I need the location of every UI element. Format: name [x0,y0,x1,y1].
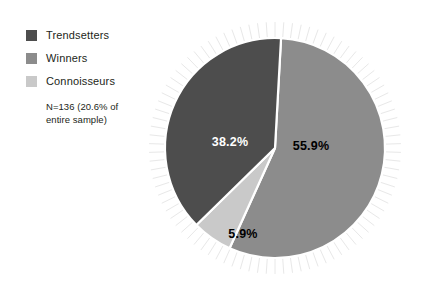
radial-tick-icon [367,210,379,218]
radial-tick-icon [150,135,165,137]
radial-tick-icon [166,85,179,93]
radial-tick-icon [375,197,388,204]
radial-tick-icon [171,78,183,86]
radial-tick-icon [166,204,179,212]
radial-tick-icon [385,135,400,137]
radial-tick-icon [362,216,374,225]
radial-tick-icon [375,93,388,100]
radial-tick-icon [327,246,334,259]
radial-tick-icon [249,25,252,40]
radial-tick-icon [290,258,292,273]
radial-tick-icon [371,204,384,212]
radial-tick-icon [149,144,164,145]
radial-tick-icon [367,78,379,86]
radial-tick-icon [340,238,349,250]
radial-tick-icon [208,242,216,255]
radial-tick-icon [383,118,398,122]
radial-tick-icon [150,160,165,162]
radial-tick-icon [357,64,368,74]
radial-tick-icon [298,257,301,272]
radial-tick-icon [153,175,168,179]
radial-tick-icon [151,167,166,170]
radial-tick-icon [378,190,392,196]
radial-tick-icon [362,70,374,79]
radial-tick-icon [224,249,230,263]
radial-tick-icon [385,160,400,162]
radial-tick-icon [298,25,301,40]
radial-tick-icon [357,222,368,232]
radial-tick-icon [162,93,175,100]
radial-tick-icon [176,70,188,79]
radial-tick-icon [232,252,237,266]
radial-tick-icon [386,144,401,145]
radial-tick-icon [216,37,223,50]
radial-tick-icon [340,46,349,58]
radial-tick-icon [216,246,223,259]
radial-tick-icon [194,51,204,62]
radial-tick-icon [283,259,284,274]
radial-tick-icon [384,126,399,129]
radial-tick-icon [266,259,267,274]
radial-tick-icon [266,22,267,37]
radial-tick-icon [155,109,169,114]
radial-tick-icon [346,233,356,244]
radial-tick-icon [171,210,183,218]
radial-tick-icon [240,27,244,41]
pie-svg: 55.9%38.2%5.9% [0,0,423,286]
pie-slices-group [165,38,385,258]
radial-tick-icon [153,118,168,122]
pie-slice-label-winners: 55.9% [293,139,329,153]
radial-tick-icon [371,85,384,93]
radial-tick-icon [352,57,362,68]
radial-tick-icon [162,197,175,204]
radial-tick-icon [187,57,197,68]
radial-tick-icon [201,238,210,250]
radial-tick-icon [232,30,237,44]
radial-tick-icon [334,41,342,54]
pie-slice-label-trendsetters: 38.2% [212,135,248,149]
radial-tick-icon [320,33,326,47]
pie-slice-label-connoisseurs: 5.9% [228,227,257,241]
radial-tick-icon [158,190,172,196]
radial-tick-icon [381,109,395,114]
radial-tick-icon [306,27,310,41]
radial-tick-icon [383,175,398,179]
radial-tick-icon [306,255,310,269]
pie-chart-figure: Trendsetters Winners Connoisseurs N=136 … [0,0,423,286]
radial-tick-icon [224,33,230,47]
radial-tick-icon [386,152,401,153]
pie-plot-area: 55.9%38.2%5.9% [0,0,423,286]
radial-tick-icon [181,222,192,232]
radial-tick-icon [149,152,164,153]
radial-tick-icon [313,252,318,266]
radial-tick-icon [151,126,166,129]
radial-tick-icon [378,101,392,107]
radial-tick-icon [181,64,192,74]
radial-tick-icon [327,37,334,50]
radial-tick-icon [334,242,342,255]
radial-tick-icon [352,228,362,239]
radial-tick-icon [381,182,395,187]
radial-tick-icon [176,216,188,225]
radial-tick-icon [384,167,399,170]
radial-tick-icon [283,22,284,37]
radial-tick-icon [201,46,210,58]
radial-tick-icon [320,249,326,263]
radial-tick-icon [313,30,318,44]
radial-tick-icon [155,182,169,187]
radial-tick-icon [194,233,204,244]
radial-tick-icon [249,257,252,272]
radial-tick-icon [158,101,172,107]
radial-tick-icon [290,23,292,38]
radial-tick-icon [346,51,356,62]
radial-tick-icon [208,41,216,54]
radial-tick-icon [240,255,244,269]
radial-tick-icon [257,23,259,38]
radial-tick-icon [257,258,259,273]
radial-tick-icon [187,228,197,239]
